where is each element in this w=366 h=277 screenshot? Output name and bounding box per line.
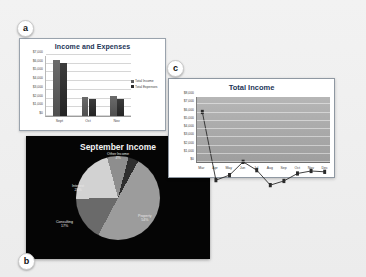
line-chart-x-tick: Dec [322, 166, 328, 170]
legend-label: Total Income [135, 79, 154, 83]
pie-label-consulting-pct: 17% [56, 224, 73, 228]
bar-group [46, 56, 74, 116]
line-chart-y-tick: $4,000 [184, 124, 194, 128]
line-chart-gridline [197, 103, 330, 104]
pie-label-interest: Interest 25% [72, 184, 84, 193]
panel-label-a: a [17, 20, 34, 37]
line-chart-y-axis: $0$1,000$2,000$3,000$4,000$5,000$6,000$7… [169, 97, 195, 163]
line-chart-plot-area [196, 97, 330, 163]
line-chart-x-tick: Oct [295, 166, 300, 170]
line-chart-marker [269, 183, 272, 187]
bar-chart-y-tick: $1,000 [33, 102, 43, 106]
bar-income [53, 60, 60, 116]
line-chart-x-tick: Sep [280, 166, 286, 170]
line-chart-x-tick: Aug [267, 166, 273, 170]
bar-chart-body: $0$1,000$2,000$3,000$4,000$5,000$6,000$7… [20, 53, 167, 131]
line-chart-x-axis: MarAprMayJunJulAugSepOctNovDec [196, 166, 330, 175]
pie-label-interest-name: Interest [72, 184, 84, 188]
legend-swatch [131, 85, 134, 88]
panel-label-c: c [167, 60, 184, 77]
line-chart-gridline [197, 95, 330, 96]
bar-income [110, 96, 117, 116]
bar-chart-x-tick: Oct [85, 119, 91, 123]
bar-income [82, 97, 89, 116]
line-chart-body: $0$1,000$2,000$3,000$4,000$5,000$6,000$7… [169, 94, 336, 179]
line-chart-x-tick: Nov [308, 166, 314, 170]
bar-expenses [89, 99, 96, 116]
line-chart-y-tick: $6,000 [184, 108, 194, 112]
line-chart-x-tick: Jul [254, 166, 258, 170]
pie-label-property-pct: 54% [138, 218, 152, 222]
line-chart-y-tick: $8,000 [184, 91, 194, 95]
bar-expenses [117, 99, 124, 116]
line-chart-x-tick: May [225, 166, 232, 170]
line-chart-marker [282, 179, 285, 183]
line-chart-gridline [197, 112, 330, 113]
pie-label-other-income-name: Other Income [107, 152, 129, 156]
bar-expenses [60, 63, 67, 116]
pie-label-consulting: Consulting 17% [56, 220, 73, 229]
line-chart-gridline [197, 145, 330, 146]
bar-chart-y-tick: $6,000 [33, 59, 43, 63]
line-chart-marker [214, 178, 217, 182]
pie-label-consulting-name: Consulting [56, 220, 73, 224]
line-chart-y-tick: $3,000 [184, 132, 194, 136]
bar-chart-y-tick: $4,000 [33, 76, 43, 80]
bar-chart-x-tick: Sept [56, 119, 63, 123]
line-chart-x-tick: Jun [240, 166, 246, 170]
bar-chart-y-axis: $0$1,000$2,000$3,000$4,000$5,000$6,000$7… [20, 56, 44, 117]
line-chart-y-tick: $2,000 [184, 141, 194, 145]
line-chart-x-tick: Mar [198, 166, 204, 170]
line-chart-y-tick: $0 [190, 157, 194, 161]
line-chart-gridline [197, 161, 330, 162]
pie-label-other-income-pct: 4% [107, 156, 129, 160]
pie-label-interest-pct: 25% [72, 188, 84, 192]
bar-chart-y-tick: $2,000 [33, 94, 43, 98]
pie-label-other-income: Other Income 4% [107, 152, 129, 161]
legend-item: Total Income [131, 79, 165, 83]
bar-chart-x-axis: SeptOctNov [45, 119, 131, 129]
legend-swatch [131, 80, 134, 83]
panel-c-line-chart: Total Income $0$1,000$2,000$3,000$4,000$… [168, 78, 335, 178]
line-chart-gridline [197, 128, 330, 129]
bar-group [103, 56, 131, 116]
legend-item: Total Expenses [131, 85, 165, 89]
pie-chart-graphic [76, 156, 160, 240]
pie-label-property-name: Property [138, 214, 152, 218]
line-chart-gridline [197, 136, 330, 137]
line-chart-x-tick: Apr [212, 166, 217, 170]
bar-chart-y-tick: $5,000 [33, 67, 43, 71]
line-chart-series-svg [197, 97, 330, 230]
panel-a-bar-chart: Income and Expenses $0$1,000$2,000$3,000… [19, 38, 166, 131]
bar-group [74, 56, 102, 116]
bar-chart-plot-area [45, 56, 131, 117]
bar-chart-y-tick: $0 [39, 111, 43, 115]
line-chart-gridline [197, 153, 330, 154]
bar-chart-legend: Total IncomeTotal Expenses [131, 79, 165, 90]
line-chart-gridline [197, 120, 330, 121]
legend-label: Total Expenses [135, 85, 157, 89]
panel-label-b: b [18, 253, 35, 270]
pie-label-property: Property 54% [138, 214, 152, 223]
bar-chart-title: Income and Expenses [20, 43, 165, 50]
bar-chart-y-tick: $7,000 [33, 50, 43, 54]
figure-canvas: Income and Expenses $0$1,000$2,000$3,000… [0, 0, 366, 277]
line-chart-y-tick: $7,000 [184, 99, 194, 103]
bar-chart-x-tick: Nov [113, 119, 119, 123]
bar-chart-gridline [46, 54, 131, 55]
line-chart-y-tick: $1,000 [184, 149, 194, 153]
line-chart-y-tick: $5,000 [184, 116, 194, 120]
bar-chart-y-tick: $3,000 [33, 85, 43, 89]
